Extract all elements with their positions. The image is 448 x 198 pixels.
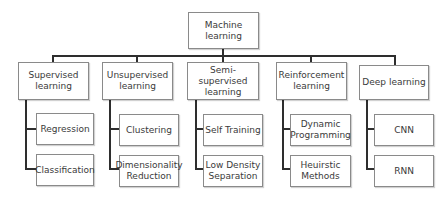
node-label: Self Training (205, 125, 260, 136)
branch-deep-2 (366, 168, 374, 170)
node-machine-learning: Machine learning (188, 12, 259, 49)
node-deep-learning: Deep learning (359, 65, 429, 100)
node-reinforcement-learning: Reinforcement learning (276, 62, 347, 100)
node-label: Regression (40, 124, 89, 135)
drop-supervised (52, 55, 54, 62)
node-label: RNN (394, 166, 414, 177)
node-self-training: Self Training (203, 114, 263, 146)
node-label: Dynamic Programming (290, 119, 351, 141)
node-cnn: CNN (374, 114, 434, 146)
spine-semi (195, 100, 197, 170)
node-label: Dimensionality Reduction (115, 160, 182, 182)
node-label: Supervised learning (28, 70, 78, 92)
node-label: Semi-supervised learning (188, 65, 258, 98)
node-classification: Classification (36, 154, 94, 186)
node-dimensionality-reduction: Dimensionality Reduction (119, 155, 179, 187)
branch-reinforcement-2 (282, 168, 290, 170)
branch-semi-2 (195, 168, 203, 170)
branch-unsupervised-1 (109, 128, 119, 130)
branch-deep-1 (366, 128, 374, 130)
drop-deep (394, 55, 396, 65)
node-semi-supervised-learning: Semi-supervised learning (187, 62, 259, 100)
node-label: Reinforcement learning (279, 70, 345, 92)
node-dynamic-programming: Dynamic Programming (290, 114, 351, 146)
node-label: Heuirstic Methods (301, 160, 341, 182)
node-supervised-learning: Supervised learning (18, 62, 89, 100)
node-rnn: RNN (374, 155, 434, 187)
node-label: Clustering (126, 125, 172, 136)
node-label: Unsupervised learning (107, 70, 168, 92)
spine-unsupervised (109, 100, 111, 170)
top-bus (52, 55, 396, 57)
node-label: Low Density Separation (206, 160, 261, 182)
node-label: Classification (35, 165, 95, 176)
drop-reinforcement (310, 55, 312, 62)
node-regression: Regression (36, 113, 94, 145)
node-label: Deep learning (362, 77, 425, 88)
branch-supervised-1 (25, 128, 36, 130)
node-label: Machine learning (189, 20, 258, 42)
drop-unsupervised (136, 55, 138, 62)
drop-semi (222, 55, 224, 62)
node-unsupervised-learning: Unsupervised learning (102, 62, 173, 100)
branch-semi-1 (195, 128, 203, 130)
branch-reinforcement-1 (282, 128, 290, 130)
spine-reinforcement (282, 100, 284, 170)
node-clustering: Clustering (119, 114, 179, 146)
node-low-density-separation: Low Density Separation (203, 155, 263, 187)
node-label: CNN (394, 125, 414, 136)
spine-deep (366, 99, 368, 170)
node-heuristic-methods: Heuirstic Methods (290, 155, 351, 187)
spine-supervised (25, 100, 27, 170)
